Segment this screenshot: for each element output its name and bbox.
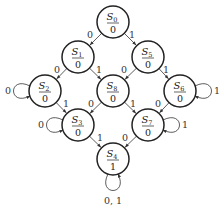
edge-labels-layer: 01010110101000110, 1	[5, 29, 220, 206]
transition-label: 0	[122, 132, 128, 143]
state-node-s3: S30	[62, 109, 94, 141]
self-loop-s2	[14, 84, 31, 99]
transition-s6-to-s7	[160, 103, 169, 113]
self-loop-s6	[195, 84, 212, 99]
state-output: 0	[42, 93, 48, 104]
transition-label: 0	[88, 98, 94, 109]
state-output: 0	[110, 24, 116, 35]
self-loop-s7	[163, 118, 180, 133]
self-loop-label: 0, 1	[104, 195, 122, 206]
state-node-s2: S20	[29, 75, 61, 107]
state-output: 0	[145, 127, 151, 138]
state-output: 0	[110, 93, 116, 104]
transition-label: 1	[129, 29, 135, 40]
state-output: 0	[75, 59, 81, 70]
states-layer: S00S10S50S20S80S60S30S70S41	[29, 6, 196, 175]
state-node-s4: S41	[97, 143, 129, 175]
transition-label: 1	[96, 64, 102, 75]
self-loop-label: 1	[214, 85, 220, 96]
state-node-s1: S10	[62, 41, 94, 73]
self-loop-s4	[106, 174, 121, 191]
state-output: 0	[75, 127, 81, 138]
transition-label: 0	[87, 29, 93, 40]
state-diagram-canvas: S00S10S50S20S80S60S30S70S41 010101101010…	[0, 0, 220, 209]
state-node-s0: S00	[97, 6, 129, 38]
transition-label: 1	[63, 98, 69, 109]
state-output: 1	[110, 161, 116, 172]
self-loop-label: 0	[5, 85, 11, 96]
state-diagram: S00S10S50S20S80S60S30S70S41 010101101010…	[0, 0, 220, 209]
self-loop-label: 0	[38, 119, 44, 130]
self-loop-s3	[47, 118, 64, 133]
state-node-s7: S70	[132, 109, 164, 141]
state-output: 0	[145, 59, 151, 70]
transition-label: 1	[163, 64, 169, 75]
state-output: 0	[177, 93, 183, 104]
state-node-s5: S50	[132, 41, 164, 73]
transition-label: 1	[130, 98, 136, 109]
state-node-s8: S80	[97, 75, 129, 107]
state-node-s6: S60	[164, 75, 196, 107]
transition-label: 1	[97, 132, 103, 143]
transition-label: 0	[54, 64, 60, 75]
transition-label: 0	[121, 64, 127, 75]
transition-label: 0	[155, 98, 161, 109]
self-loop-label: 1	[182, 119, 188, 130]
